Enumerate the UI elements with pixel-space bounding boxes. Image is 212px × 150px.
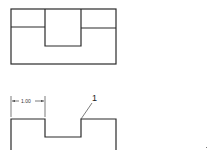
bottom-figure: 1.00 1: [11, 93, 116, 150]
callout-annotation: 1: [81, 93, 97, 119]
stray-mark: [206, 147, 207, 148]
dimension-value: 1.00: [21, 98, 31, 104]
arrowhead-left-icon: [12, 100, 15, 102]
callout-leader-line: [81, 103, 92, 119]
top-outer-outline: [11, 9, 116, 64]
top-center-notch: [45, 9, 81, 46]
bottom-profile-outline: [11, 119, 116, 150]
arrowhead-right-icon: [41, 100, 44, 102]
callout-label: 1: [92, 93, 97, 103]
technical-drawing: 1.00 1: [0, 0, 212, 150]
top-figure: [11, 9, 116, 64]
dimension-annotation: 1.00: [11, 96, 45, 117]
